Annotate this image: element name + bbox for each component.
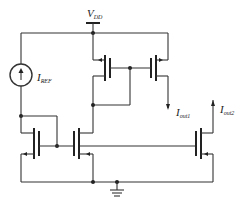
pmos-m5 — [151, 33, 168, 90]
vdd-terminal: VDD — [86, 7, 103, 33]
iref-current-source: IREF — [10, 33, 52, 116]
schematic: VDD IREF Iout1 — [0, 0, 243, 209]
iout1-arrow: Iout1 — [166, 90, 190, 119]
circuit-diagram: VDD IREF Iout1 — [0, 0, 243, 209]
iout1-label: Iout1 — [175, 106, 190, 119]
nmos-m2 — [74, 122, 93, 182]
nmos-m1 — [19, 114, 57, 182]
ground-icon — [110, 182, 124, 196]
iout2-label: Iout2 — [219, 103, 234, 116]
vdd-label: VDD — [87, 7, 103, 20]
iout2-arrow: Iout2 — [211, 100, 234, 130]
iref-label: IREF — [36, 71, 52, 84]
node-dot — [91, 103, 95, 107]
nmos-m3 — [196, 128, 213, 182]
node-dot — [91, 180, 95, 184]
pmos-m4 — [93, 33, 110, 122]
